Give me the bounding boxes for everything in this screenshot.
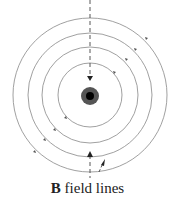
wire-core — [86, 92, 94, 100]
arrow-down-icon — [87, 76, 93, 81]
caption: B field lines — [0, 180, 175, 197]
field-lines-diagram — [0, 0, 175, 201]
caption-bold: B — [51, 180, 61, 196]
arrow-up-icon — [87, 151, 93, 157]
caption-text: field lines — [61, 180, 124, 196]
arrow-diagonal-icon — [101, 159, 105, 166]
